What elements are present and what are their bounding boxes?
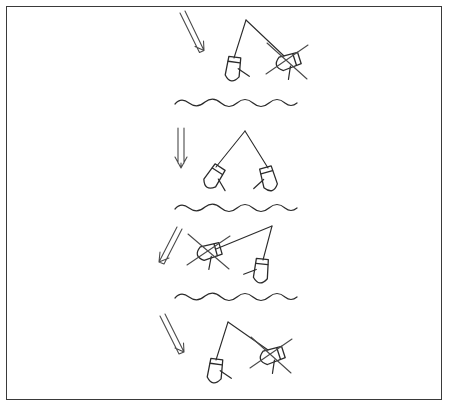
anchor-rode-right [246, 20, 284, 56]
wind-arrow [175, 128, 187, 168]
panel-1 [175, 11, 308, 107]
boat-right [249, 166, 279, 196]
boat-left [187, 234, 230, 271]
anchor-rode-left [216, 322, 228, 360]
anchor-rode-right [228, 322, 268, 350]
anchor-rode-left [234, 20, 246, 58]
wind-arrow [160, 314, 184, 354]
anchor-rode-right [263, 226, 272, 260]
wind-arrow [180, 11, 204, 53]
boat-right [266, 43, 308, 82]
panel-4 [160, 314, 292, 385]
incorrect-cross-icon [250, 337, 292, 373]
boat-right [250, 337, 292, 376]
diagram-page [0, 0, 449, 408]
wind-arrow [159, 227, 182, 264]
boat-left [207, 358, 234, 385]
panel-2 [175, 128, 297, 212]
anchor-rode-left [216, 131, 245, 167]
water-line [175, 99, 297, 106]
sketch-canvas [0, 0, 449, 408]
water-line [175, 204, 297, 211]
incorrect-cross-icon [187, 234, 230, 269]
boat-left [201, 163, 234, 196]
anchor-rode-left [216, 226, 272, 249]
anchor-rode-right [245, 131, 268, 168]
boat-left [225, 56, 252, 83]
panel-3 [159, 226, 297, 301]
boat-right [243, 257, 269, 283]
incorrect-cross-icon [266, 43, 308, 79]
water-line [175, 293, 297, 300]
